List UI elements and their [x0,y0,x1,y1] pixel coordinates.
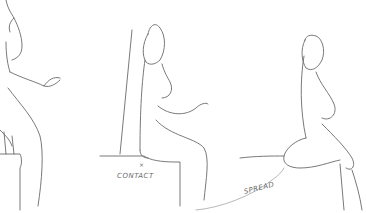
contact-marker: × [139,161,145,168]
sketch-canvas: × CONTACT SPREAD [0,0,366,213]
figure-left [0,0,60,210]
contact-label: CONTACT [117,172,154,180]
sketch-drawing [0,0,366,213]
